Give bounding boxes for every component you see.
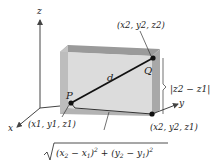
x-axis-label: x: [8, 123, 13, 133]
vertical-brace: [163, 58, 166, 114]
p-label: P: [65, 90, 73, 101]
distance-3d-diagram: z x y P Q d (x2, y2, z2) (x1, y1, z1) (x…: [0, 0, 212, 168]
y-axis-back: [40, 106, 60, 108]
y-axis-label: y: [178, 98, 185, 108]
point-q: [150, 55, 155, 60]
point-p: [68, 100, 73, 105]
p-coords: (x1, y1, z1): [28, 119, 76, 129]
diagram-svg: z x y P Q d (x2, y2, z2) (x1, y1, z1) (x…: [0, 0, 212, 168]
d-label: d: [107, 72, 113, 83]
point-corner: [149, 111, 154, 116]
horizontal-distance-label: (x2 − x1)2 + (y2 − y1)2: [56, 146, 153, 159]
q-label: Q: [144, 65, 152, 76]
vertical-distance-label: |z2 − z1|: [170, 84, 210, 95]
z-axis-label: z: [36, 6, 42, 16]
q-coords: (x2, y2, z2): [117, 20, 165, 30]
corner-coords: (x2, y2, z1): [150, 122, 198, 132]
